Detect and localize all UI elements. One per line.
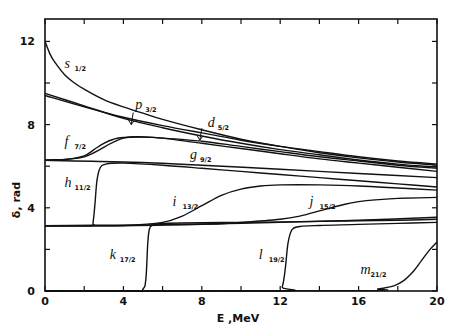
label-subscript: 21/2 bbox=[371, 271, 387, 279]
label-i13-2: i bbox=[172, 194, 176, 209]
x-axis-label: E ,MeV bbox=[217, 312, 260, 325]
label-subscript: 19/2 bbox=[269, 256, 285, 264]
curve-p3-2 bbox=[45, 96, 437, 165]
phase-shift-curves bbox=[45, 41, 437, 291]
label-m21-2: m bbox=[361, 262, 371, 277]
y-tick-label: 12 bbox=[20, 35, 35, 48]
label-subscript: 3/2 bbox=[145, 106, 156, 114]
curve-k17-2 bbox=[45, 219, 437, 291]
curve-j15-2 bbox=[45, 197, 437, 225]
label-subscript: 5/2 bbox=[218, 124, 229, 132]
y-tick-label: 8 bbox=[27, 119, 35, 132]
label-g9-2: g bbox=[190, 147, 197, 162]
label-s1-2: s bbox=[65, 56, 71, 71]
y-tick-label: 4 bbox=[27, 202, 35, 215]
label-k17-2: k bbox=[110, 247, 117, 262]
label-subscript: 7/2 bbox=[75, 143, 86, 151]
phase-shift-chart: 04812162004812 s1/2p3/2d5/2f7/2g9/2h11/2… bbox=[0, 0, 462, 332]
curve-h11-2 bbox=[45, 163, 437, 226]
label-d5-2: d bbox=[208, 115, 216, 130]
curve-d5-2 bbox=[45, 137, 437, 169]
x-tick-label: 0 bbox=[41, 295, 49, 308]
label-subscript: 13/2 bbox=[182, 203, 198, 211]
y-axis-label: δ, rad bbox=[10, 182, 23, 218]
curve-p1-2 bbox=[45, 93, 437, 167]
label-subscript: 1/2 bbox=[75, 65, 86, 73]
x-tick-label: 4 bbox=[120, 295, 128, 308]
plot-frame bbox=[45, 19, 437, 291]
curve-labels: s1/2p3/2d5/2f7/2g9/2h11/2i13/2j15/2k17/2… bbox=[65, 56, 387, 279]
label-subscript: 11/2 bbox=[75, 184, 91, 192]
curve-m21-2 bbox=[45, 242, 437, 291]
y-tick-label: 0 bbox=[27, 285, 35, 298]
label-f7-2: f bbox=[65, 134, 71, 149]
x-tick-label: 16 bbox=[351, 295, 367, 308]
x-tick-label: 12 bbox=[273, 295, 288, 308]
curve-f7-2 bbox=[45, 137, 437, 171]
curve-l19-2 bbox=[45, 222, 437, 291]
label-subscript: 9/2 bbox=[200, 156, 211, 164]
x-tick-label: 8 bbox=[198, 295, 206, 308]
label-j15-2: j bbox=[308, 194, 314, 209]
label-h11-2: h bbox=[65, 175, 72, 190]
label-p3-2: p bbox=[134, 97, 142, 112]
label-l19-2: l bbox=[259, 247, 263, 262]
label-subscript: 17/2 bbox=[120, 256, 136, 264]
label-subscript: 15/2 bbox=[320, 203, 336, 211]
x-tick-label: 20 bbox=[429, 295, 445, 308]
